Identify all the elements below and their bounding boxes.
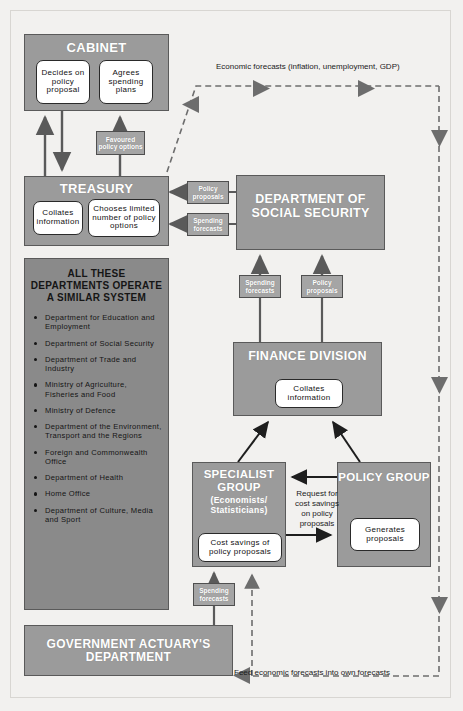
cabinet-agrees-node: Agrees spending plans xyxy=(99,60,153,104)
list-item: Department of Social Security xyxy=(45,339,162,348)
tag-policy-proposals-to-dss: Policy proposals xyxy=(301,275,343,298)
list-item: Department for Education and Employment xyxy=(45,313,162,332)
list-item: Department of Health xyxy=(45,473,162,482)
list-item: Home Office xyxy=(45,489,162,498)
cabinet-title: CABINET xyxy=(25,35,168,56)
tag-favoured-policy-options: Favoured policy options xyxy=(96,131,145,155)
gad-title: GOVERNMENT ACTUARY'S DEPARTMENT xyxy=(25,626,232,665)
departments-heading: ALL THESE DEPARTMENTS OPERATE A SIMILAR … xyxy=(25,259,168,304)
policy-group-box: POLICY GROUP Generates proposals xyxy=(337,462,431,567)
list-item: Ministry of Defence xyxy=(45,406,162,415)
policy-group-title: POLICY GROUP xyxy=(338,463,430,484)
treasury-chooses-node: Chooses limited number of policy options xyxy=(88,199,160,237)
government-actuarys-department-box: GOVERNMENT ACTUARY'S DEPARTMENT xyxy=(24,625,233,676)
department-of-social-security-box: DEPARTMENT OF SOCIAL SECURITY xyxy=(236,175,385,250)
list-item: Ministry of Agriculture, Fisheries and F… xyxy=(45,380,162,399)
treasury-title: TREASURY xyxy=(25,177,168,197)
finance-title: FINANCE DIVISION xyxy=(234,343,381,363)
tag-spending-forecasts-to-treasury: Spending forecasts xyxy=(187,213,229,236)
specialist-subtitle: (Economists/ Statisticians) xyxy=(193,496,285,516)
treasury-box: TREASURY Collates information Chooses li… xyxy=(24,176,169,246)
list-item: Foreign and Commonwealth Office xyxy=(45,448,162,467)
tag-policy-proposals-to-treasury: Policy proposals xyxy=(187,181,229,204)
cabinet-box: CABINET Decides on policy proposal Agree… xyxy=(24,34,169,111)
cabinet-decides-node: Decides on policy proposal xyxy=(36,60,90,104)
request-note: Request for cost savings on policy propo… xyxy=(291,489,343,529)
departments-panel: ALL THESE DEPARTMENTS OPERATE A SIMILAR … xyxy=(24,258,169,610)
finance-division-box: FINANCE DIVISION Collates information xyxy=(233,342,382,416)
list-item: Department of the Environment, Transport… xyxy=(45,422,162,441)
departments-list: Department for Education and Employment … xyxy=(25,313,168,524)
dss-title: DEPARTMENT OF SOCIAL SECURITY xyxy=(237,176,384,220)
list-item: Department of Trade and Industry xyxy=(45,355,162,374)
specialist-group-box: SPECIALIST GROUP (Economists/ Statistici… xyxy=(192,462,286,567)
policy-generates-node: Generates proposals xyxy=(350,518,420,551)
economic-forecasts-note: Economic forecasts (inflation, unemploym… xyxy=(216,62,454,72)
diagram-canvas: CABINET Decides on policy proposal Agree… xyxy=(0,0,463,711)
specialist-title: SPECIALIST GROUP xyxy=(193,463,285,494)
finance-collates-node: Collates information xyxy=(275,379,343,408)
specialist-cost-savings-node: Cost savings of policy proposals xyxy=(198,533,282,562)
list-item: Department of Culture, Media and Sport xyxy=(45,506,162,525)
treasury-collates-node: Collates information xyxy=(33,201,83,235)
tag-spending-forecasts-to-dss: Spending forecasts xyxy=(239,275,281,298)
feed-forecasts-note: Feed economic forecasts into own forecas… xyxy=(234,668,460,678)
tag-spending-forecasts-to-specialist: Spending forecasts xyxy=(193,583,235,606)
